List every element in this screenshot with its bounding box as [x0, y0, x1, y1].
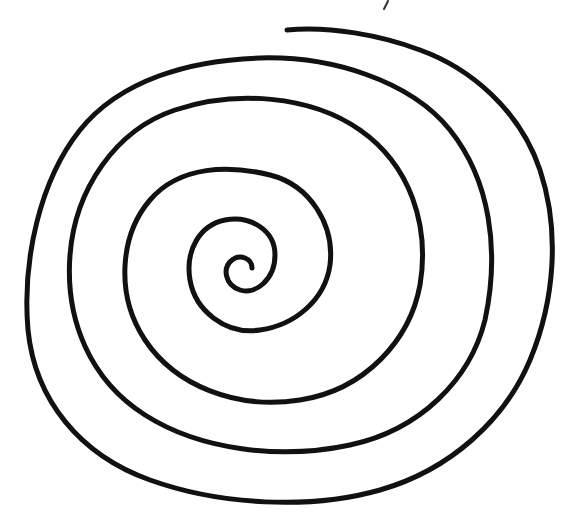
- spiral-stroke: [27, 29, 552, 502]
- spiral-drawing: [0, 0, 569, 514]
- stray-pen-mark: [384, 1, 388, 9]
